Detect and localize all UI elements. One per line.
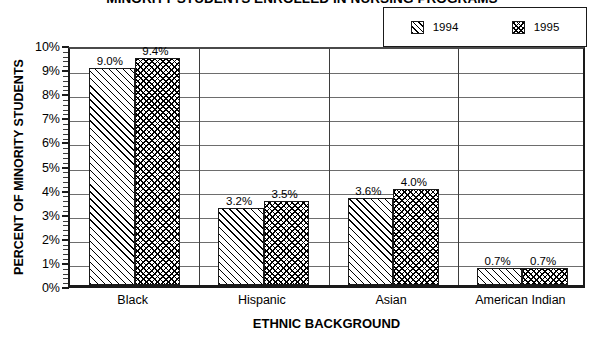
x-axis-category-label: Asian	[375, 293, 406, 307]
bar-value-label: 9.4%	[142, 45, 168, 57]
category-separator	[329, 49, 330, 285]
y-axis-tick-label: 8%	[16, 88, 60, 102]
y-axis-tick-label: 2%	[16, 233, 60, 247]
bar-1994-american-indian	[477, 268, 523, 285]
bar-1994-black	[89, 68, 135, 285]
bar-1995-hispanic	[264, 201, 310, 285]
bar-value-label: 3.6%	[355, 185, 381, 197]
chart-title: MINORITY STUDENTS ENROLLED IN NURSING PR…	[0, 0, 604, 6]
bar-value-label: 0.7%	[530, 255, 556, 267]
x-axis-title: ETHNIC BACKGROUND	[68, 316, 585, 331]
legend-label-1994: 1994	[433, 21, 459, 33]
bar-1995-american-indian	[522, 268, 568, 285]
y-axis-tick-label: 4%	[16, 185, 60, 199]
x-axis-category-label: Hispanic	[238, 293, 286, 307]
bar-value-label: 3.5%	[272, 188, 298, 200]
x-axis-category-label: American Indian	[475, 293, 565, 307]
y-axis-tick-label: 3%	[16, 209, 60, 223]
y-axis-tick-label: 6%	[16, 136, 60, 150]
y-axis-tick-label: 5%	[16, 161, 60, 175]
y-axis-tick-label: 10%	[16, 40, 60, 54]
legend-entry-1995: 1995	[512, 21, 560, 34]
y-axis-tick-labels: 0%1%2%3%4%5%6%7%8%9%10%	[14, 47, 60, 288]
bar-value-label: 0.7%	[485, 255, 511, 267]
y-axis-tick-label: 7%	[16, 112, 60, 126]
bar-value-label: 9.0%	[97, 55, 123, 67]
bar-value-label: 4.0%	[401, 176, 427, 188]
chart-legend: 1994 1995	[383, 7, 587, 47]
x-axis-category-label: Black	[117, 293, 148, 307]
legend-swatch-1994-icon	[411, 21, 424, 34]
legend-entry-1994: 1994	[411, 21, 459, 34]
legend-label-1995: 1995	[534, 21, 560, 33]
bar-1994-hispanic	[218, 208, 264, 285]
y-axis-tick-label: 1%	[16, 257, 60, 271]
category-separator	[199, 49, 200, 285]
bar-value-label: 3.2%	[226, 195, 252, 207]
bar-1995-asian	[393, 189, 439, 285]
y-axis-tick-label: 0%	[16, 281, 60, 295]
bar-1995-black	[135, 58, 181, 285]
bar-1994-asian	[348, 198, 394, 285]
y-axis-tick-label: 9%	[16, 64, 60, 78]
category-separator	[458, 49, 459, 285]
plot-area	[68, 47, 585, 288]
bar-chart: MINORITY STUDENTS ENROLLED IN NURSING PR…	[0, 0, 604, 340]
legend-swatch-1995-icon	[512, 21, 525, 34]
